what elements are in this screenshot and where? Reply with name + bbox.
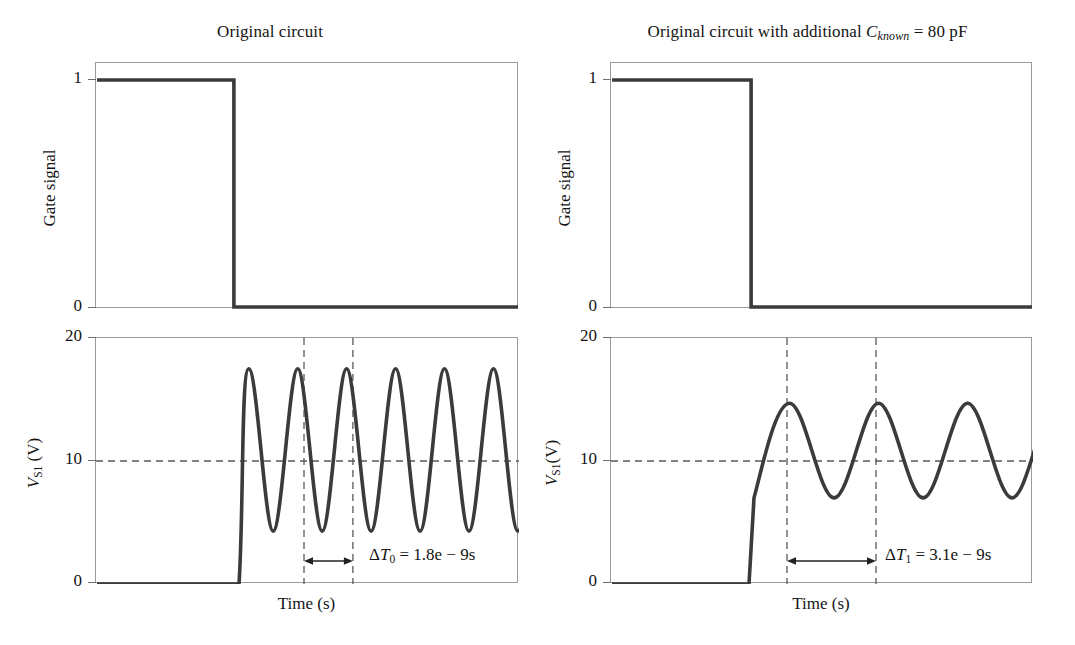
- left-gate-ticklabel-0: 0: [48, 296, 82, 316]
- right-gate-tick-1: [603, 79, 611, 80]
- left-gate-axes: [95, 62, 518, 308]
- right-delta-t-annotation: ΔT1 = 3.1e − 9s: [885, 545, 991, 565]
- left-gate-plot: [96, 63, 519, 309]
- right-vs1-ticklabel-20: 20: [555, 326, 597, 346]
- left-vs1-xlabel: Time (s): [95, 594, 518, 614]
- panel-left-title-text: Original circuit: [217, 22, 323, 41]
- left-vs1-ticklabel-0: 0: [40, 571, 82, 591]
- right-gate-plot: [611, 63, 1033, 309]
- right-delta-symbol: Δ: [885, 545, 896, 564]
- right-gate-ylabel: Gate signal: [555, 93, 575, 283]
- left-vs1-ylabel-subscript: S1: [32, 466, 44, 478]
- right-vs1-ylabel-unit: (V): [542, 440, 561, 464]
- left-annotation-value: 1.8e − 9s: [413, 545, 475, 564]
- left-gate-waveform: [97, 80, 518, 307]
- figure-root: Original circuit 1 0 Gate signal: [0, 0, 1075, 645]
- right-vs1-tick-10: [603, 460, 611, 461]
- right-vs1-tick-20: [603, 337, 611, 338]
- left-gate-ticklabel-1: 1: [48, 68, 82, 88]
- left-vs1-ticklabel-10: 10: [40, 449, 82, 469]
- left-gate-tick-1: [88, 79, 96, 80]
- right-gate-axes: [610, 62, 1032, 308]
- left-delta-t-annotation: ΔT0 = 1.8e − 9s: [369, 545, 475, 565]
- right-gate-ticklabel-0: 0: [563, 296, 597, 316]
- right-annotation-var: T: [896, 545, 905, 564]
- left-period-arrow: [304, 557, 353, 565]
- panel-right-title-prefix: Original circuit with additional: [648, 22, 867, 41]
- panel-right-title-subscript: known: [878, 29, 910, 43]
- right-annotation-equals: =: [911, 545, 929, 564]
- panel-right-title: Original circuit with additional Cknown …: [540, 22, 1075, 44]
- right-vs1-ylabel: VS1(V): [542, 388, 562, 538]
- panel-left-title: Original circuit: [0, 22, 540, 42]
- left-vs1-ticklabel-20: 20: [40, 326, 82, 346]
- right-gate-tick-0: [603, 307, 611, 308]
- left-vs1-tick-10: [88, 460, 96, 461]
- right-annotation-value: 3.1e − 9s: [929, 545, 991, 564]
- panel-right: Original circuit with additional Cknown …: [540, 0, 1075, 645]
- left-delta-symbol: Δ: [369, 545, 380, 564]
- left-annotation-equals: =: [395, 545, 413, 564]
- right-vs1-ticklabel-0: 0: [555, 571, 597, 591]
- right-vs1-ylabel-subscript: S1: [550, 464, 562, 476]
- left-gate-ylabel: Gate signal: [40, 93, 60, 283]
- right-gate-ticklabel-1: 1: [563, 68, 597, 88]
- left-vs1-tick-0: [88, 582, 96, 583]
- right-vs1-ylabel-symbol: V: [542, 476, 561, 486]
- left-vs1-tick-20: [88, 337, 96, 338]
- right-gate-waveform: [612, 80, 1032, 307]
- right-vs1-tick-0: [603, 582, 611, 583]
- left-vs1-ylabel: VS1 (V): [24, 388, 44, 538]
- left-annotation-var: T: [380, 545, 389, 564]
- left-vs1-ylabel-symbol: V: [24, 478, 43, 488]
- panel-right-title-suffix: = 80 pF: [909, 22, 967, 41]
- right-vs1-xlabel: Time (s): [610, 594, 1032, 614]
- panel-left: Original circuit 1 0 Gate signal: [0, 0, 540, 645]
- left-vs1-ylabel-unit: (V): [24, 438, 43, 466]
- left-gate-tick-0: [88, 307, 96, 308]
- panel-right-title-symbol: C: [866, 22, 877, 41]
- right-period-arrow: [787, 557, 876, 565]
